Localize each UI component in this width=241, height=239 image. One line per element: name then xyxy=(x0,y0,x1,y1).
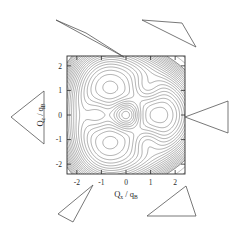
y-tick-label: -1 xyxy=(56,135,62,144)
y-tick-label: 1 xyxy=(58,86,62,95)
y-tick-label: -2 xyxy=(56,160,62,169)
x-axis-title-sub2: B xyxy=(134,194,138,200)
x-tick-label: 1 xyxy=(149,178,153,187)
x-tick-label: -1 xyxy=(98,178,104,187)
figure-background xyxy=(0,0,241,239)
x-tick-label: -2 xyxy=(74,178,80,187)
y-axis-title-sub2: B xyxy=(40,103,46,107)
y-tick-label: 2 xyxy=(58,62,62,71)
figure-canvas: -2-1012 -2-1012 Qx / qB Qz / qB xyxy=(0,0,241,239)
x-tick-label: 2 xyxy=(173,178,177,187)
contour-figure: -2-1012 -2-1012 Qx / qB Qz / qB xyxy=(0,0,241,239)
y-tick-label: 0 xyxy=(58,111,62,120)
x-tick-label: 0 xyxy=(124,178,128,187)
